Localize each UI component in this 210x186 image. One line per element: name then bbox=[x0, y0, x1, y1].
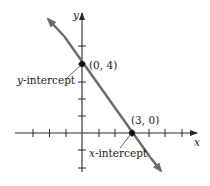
graph-line bbox=[64, 36, 150, 157]
x-intercept-leader bbox=[120, 134, 131, 148]
y-axis-label: y bbox=[72, 9, 80, 21]
coordinate-plane: y x (0, 4) (3, 0) y-intercept x-intercep… bbox=[0, 0, 210, 186]
y-intercept-label: y-intercept bbox=[16, 74, 76, 86]
x-intercept-label: x-intercept bbox=[89, 147, 148, 159]
x-intercept-coords: (3, 0) bbox=[131, 114, 159, 126]
y-intercept-coords: (0, 4) bbox=[89, 59, 117, 71]
x-axis-label: x bbox=[194, 136, 200, 148]
line-arrow-lower bbox=[150, 157, 161, 171]
intercepts-graph: y x (0, 4) (3, 0) y-intercept x-intercep… bbox=[0, 0, 210, 186]
line-arrow-upper bbox=[48, 19, 64, 36]
